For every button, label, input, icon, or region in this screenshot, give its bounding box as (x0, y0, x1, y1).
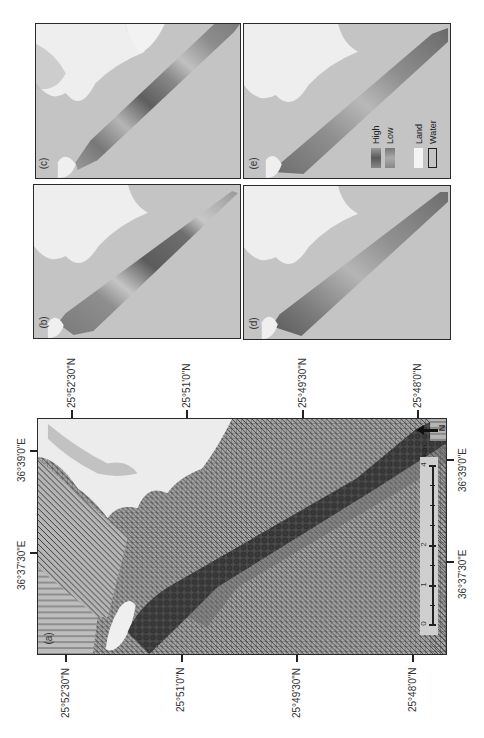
panel-d-label: (d) (248, 317, 259, 329)
scale-bar: 0 1 2 4 Km (420, 457, 438, 635)
legend-gradient-high-swatch (371, 148, 381, 168)
north-arrow: N (416, 424, 446, 436)
legend-water-label: Water (428, 120, 438, 144)
panel-c-label: (c) (38, 158, 49, 170)
legend-land-label: Land (414, 124, 424, 144)
scale-unit-label: Km (420, 445, 429, 457)
panel-d: (d) (243, 185, 451, 340)
legend-high-label: High (371, 125, 381, 144)
panel-e-label: (e) (248, 157, 259, 169)
panel-a-map (38, 419, 446, 654)
north-arrow-label: N (437, 425, 447, 432)
panel-b-label: (b) (38, 316, 49, 328)
top-lat-label-1: 25°52'30"N (66, 358, 77, 408)
right-lon-label-2: 36°37'30"E (457, 550, 468, 600)
left-lon-label-2: 36°37'30"E (16, 541, 27, 591)
panel-b-map (34, 185, 240, 338)
north-arrow-icon (422, 429, 438, 432)
panel-b: (b) (33, 184, 241, 339)
bottom-lat-label-2: 25°51'0"N (175, 668, 186, 713)
bottom-lat-label-1: 25°52'30"N (60, 668, 71, 718)
panel-a: (a) N 0 1 2 4 Km (37, 418, 447, 655)
panel-e: (e) High Low Land Water (243, 23, 451, 179)
top-lat-label-4: 25°48'0"N (412, 364, 423, 409)
panel-c-map (36, 24, 240, 178)
legend-land-swatch (414, 148, 423, 168)
legend-water-swatch (428, 148, 437, 168)
legend-low-label: Low (385, 127, 395, 144)
scale-label-4: 4 (419, 462, 428, 466)
scale-label-0: 0 (419, 621, 428, 625)
top-lat-label-2: 25°51'0"N (181, 364, 192, 409)
bottom-lat-label-3: 25°49'30"N (291, 668, 302, 718)
bottom-lat-label-4: 25°48'0"N (407, 668, 418, 713)
panel-c: (c) (35, 23, 241, 179)
legend-gradient-low-swatch (385, 148, 395, 168)
panel-a-label: (a) (43, 632, 54, 644)
top-lat-label-3: 25°49'30"N (297, 358, 308, 408)
right-lon-label-1: 36°39'0"E (457, 448, 468, 492)
scale-label-1: 1 (419, 582, 428, 586)
panel-d-map (244, 186, 450, 339)
left-lon-label-1: 36°39'0"E (16, 438, 27, 482)
scale-label-2: 2 (419, 542, 428, 546)
